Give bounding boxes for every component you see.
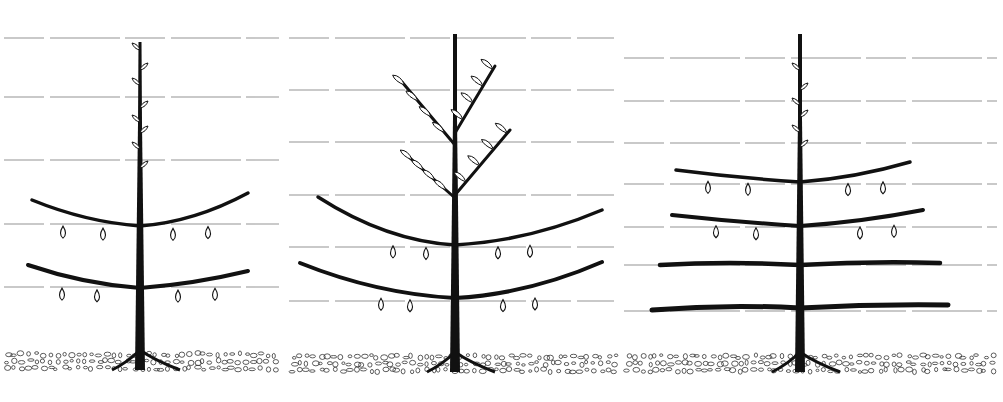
fruit-icon [101, 228, 106, 240]
fruit-icon [858, 227, 863, 239]
branch-left [652, 306, 800, 310]
leaf-icon [393, 75, 405, 85]
branch-right [455, 210, 602, 245]
fruit-icon [213, 288, 218, 300]
branch-right [140, 193, 248, 226]
branch-right [800, 305, 948, 308]
fruit-icon [424, 248, 429, 260]
fruit-icon [846, 184, 851, 196]
leaf-icon [423, 170, 435, 180]
fruit-icon [95, 290, 100, 302]
fruit-icon [206, 227, 211, 239]
leaf-icon [406, 91, 418, 101]
panel-stage-2 [285, 0, 620, 402]
branch-left [32, 200, 140, 226]
fruit-icon [533, 298, 538, 310]
leaf-icon [495, 123, 507, 133]
branch-right [800, 162, 910, 182]
soil-ground [624, 353, 997, 375]
leaf-icon [419, 107, 431, 117]
fruit-icon [496, 247, 501, 259]
leaf-icon [482, 140, 494, 150]
leaf-icon [471, 76, 483, 86]
branch-left [318, 197, 455, 245]
fruit-icon [176, 290, 181, 302]
branch-right [455, 262, 602, 298]
leaf-icon [461, 93, 473, 103]
fruit-icon [754, 228, 759, 240]
panel-stage-3 [620, 0, 1003, 402]
leaf-icon [468, 156, 480, 166]
leaf-icon [434, 180, 446, 190]
fruit-icon [746, 183, 751, 195]
upper-branch [455, 66, 495, 133]
branch-left [28, 265, 140, 288]
leaf-icon [400, 150, 412, 160]
roots [112, 350, 180, 370]
panel-stage-1 [0, 0, 285, 402]
leaf-icon [481, 59, 493, 69]
leaf-icon [412, 160, 424, 170]
branch-right [800, 210, 923, 226]
branch-left [300, 263, 455, 298]
fruit-icon [61, 226, 66, 238]
branch-left [660, 263, 800, 265]
fruit-icon [171, 228, 176, 240]
fruit-icon [379, 298, 384, 310]
leaf-icon [432, 122, 444, 132]
branch-left [672, 215, 800, 226]
branch-left [676, 170, 800, 182]
branch-right [800, 262, 940, 265]
branch-right [140, 271, 248, 288]
fruit-icon [60, 288, 65, 300]
